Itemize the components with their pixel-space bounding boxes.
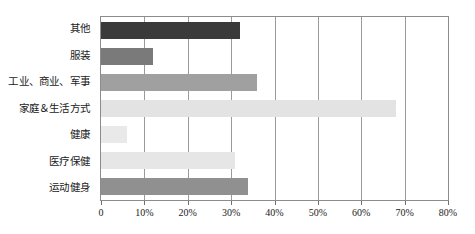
- value-axis: 010%20%30%40%50%60%70%80%: [100, 201, 449, 225]
- category-label-other: 其他: [0, 16, 96, 42]
- tick-mark-60%: [361, 201, 362, 205]
- tick-mark-20%: [188, 201, 189, 205]
- bar-slot: [101, 43, 448, 69]
- bar-slot: [101, 122, 448, 148]
- bar-health: [101, 126, 127, 143]
- bar-slot: [101, 69, 448, 95]
- bars-layer: [101, 17, 448, 200]
- tick-mark-70%: [405, 201, 406, 205]
- tick-label-20%: 20%: [179, 207, 197, 218]
- bar-chart: 其他 服装 工业、商业、军事 家庭＆生活方式 健康 医疗保健 运动健身 010%…: [0, 0, 475, 234]
- bar-slot: [101, 174, 448, 200]
- plot-area: [100, 16, 449, 201]
- tick-mark-80%: [448, 201, 449, 205]
- bar-other: [101, 22, 240, 39]
- bar-sports-fitness: [101, 178, 248, 195]
- tick-label-70%: 70%: [395, 207, 413, 218]
- tick-label-60%: 60%: [352, 207, 370, 218]
- tick-label-40%: 40%: [265, 207, 283, 218]
- tick-mark-10%: [144, 201, 145, 205]
- bar-slot: [101, 95, 448, 121]
- bar-apparel: [101, 48, 153, 65]
- tick-label-30%: 30%: [222, 207, 240, 218]
- category-label-home-lifestyle: 家庭＆生活方式: [0, 95, 96, 121]
- category-label-medical-care: 医疗保健: [0, 148, 96, 174]
- tick-label-80%: 80%: [439, 207, 457, 218]
- tick-mark-50%: [318, 201, 319, 205]
- tick-mark-0: [101, 201, 102, 205]
- tick-label-0: 0: [99, 207, 104, 218]
- tick-label-10%: 10%: [135, 207, 153, 218]
- bar-slot: [101, 148, 448, 174]
- bar-slot: [101, 17, 448, 43]
- category-label-sports-fitness: 运动健身: [0, 175, 96, 201]
- bar-medical-care: [101, 152, 235, 169]
- category-label-industrial: 工业、商业、军事: [0, 69, 96, 95]
- category-axis: 其他 服装 工业、商业、军事 家庭＆生活方式 健康 医疗保健 运动健身: [0, 16, 96, 201]
- category-label-apparel: 服装: [0, 42, 96, 68]
- tick-mark-40%: [275, 201, 276, 205]
- bar-industrial: [101, 74, 257, 91]
- tick-mark-30%: [231, 201, 232, 205]
- tick-label-50%: 50%: [309, 207, 327, 218]
- category-label-health: 健康: [0, 122, 96, 148]
- bar-home-lifestyle: [101, 100, 396, 117]
